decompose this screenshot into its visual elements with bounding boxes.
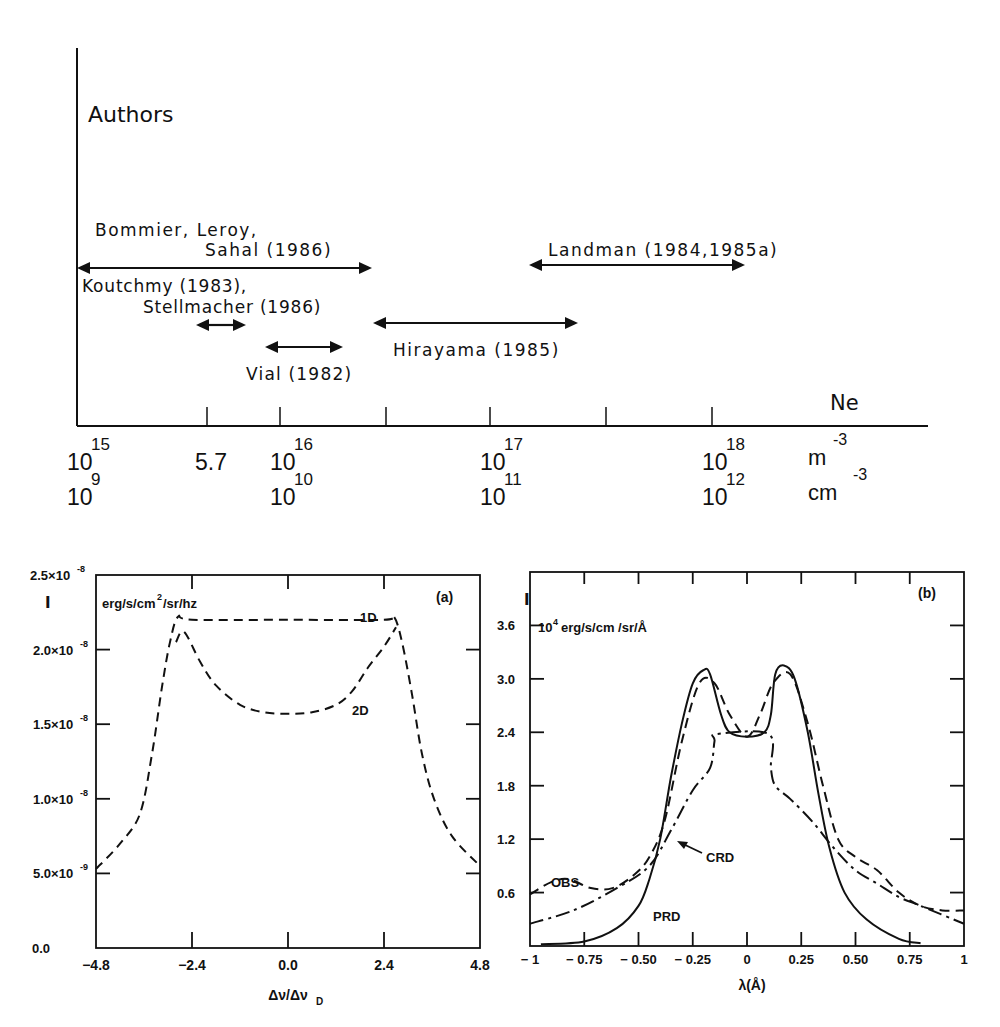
units-cm-exponent: -3 bbox=[853, 466, 867, 483]
chart-a-ytick-exponent: -8 bbox=[80, 788, 88, 798]
arrow-vial bbox=[265, 341, 343, 353]
chart-a-ytick-label: 5.0×10 bbox=[33, 866, 73, 881]
top-axis-tick-labels: 10155.7101610171018109101010111012 bbox=[67, 435, 745, 510]
chart-b-units-rest: erg/s/cm /sr/Å bbox=[561, 620, 648, 635]
tick-label-m-exponent: 17 bbox=[504, 435, 523, 454]
tick-label-cm-exponent: 12 bbox=[726, 470, 745, 489]
chart-a: 0.05.0×10-91.0×10-81.5×10-82.0×10-82.5×1… bbox=[30, 564, 490, 1007]
chart-b-label-prd: PRD bbox=[653, 909, 680, 924]
chart-b-xlabel: λ(Å) bbox=[738, 977, 765, 993]
chart-a-units-exp: 2 bbox=[157, 592, 162, 602]
tick-label-m: 5.7 bbox=[195, 449, 227, 475]
chart-b-panel-label: (b) bbox=[918, 585, 936, 601]
tick-label-cm: 10 bbox=[67, 484, 93, 510]
chart-b-ytick-label: 2.4 bbox=[497, 725, 516, 740]
chart-b-label-crd: CRD bbox=[706, 850, 734, 865]
tick-label-m-exponent: 16 bbox=[294, 435, 313, 454]
chart-a-ytick-exponent: -8 bbox=[77, 564, 85, 574]
chart-a-frame bbox=[96, 575, 480, 948]
ne-axis-label: Ne bbox=[830, 391, 859, 415]
chart-b-xtick-label: 0 bbox=[743, 952, 750, 967]
chart-b-series-obs bbox=[530, 672, 964, 911]
chart-b-units-exp: 4 bbox=[553, 617, 558, 627]
chart-b-xtick-label: − 0.50 bbox=[620, 952, 657, 967]
chart-a-series-2d bbox=[176, 627, 396, 714]
chart-a-xtick-label: 0.0 bbox=[278, 957, 298, 973]
chart-b-ytick-label: 0.6 bbox=[497, 886, 515, 901]
arrow-landman bbox=[529, 259, 745, 271]
tick-label-m: 10 bbox=[702, 449, 728, 475]
chart-a-ytick-label: 1.0×10 bbox=[33, 792, 73, 807]
arrow-hirayama bbox=[373, 317, 578, 329]
tick-label-cm-exponent: 10 bbox=[294, 470, 313, 489]
label-stellmacher: Stellmacher (1986) bbox=[143, 297, 321, 317]
author-range-arrows: Bommier, Leroy,Sahal (1986)Koutchmy (198… bbox=[77, 220, 778, 384]
chart-a-xtick-label: −2.4 bbox=[178, 957, 206, 973]
chart-a-label-1d: 1D bbox=[360, 610, 377, 625]
tick-label-m-exponent: 15 bbox=[91, 435, 110, 454]
chart-a-xtick-label: 2.4 bbox=[374, 957, 394, 973]
label-hirayama: Hirayama (1985) bbox=[393, 340, 560, 360]
chart-b-series-prd bbox=[541, 665, 921, 944]
chart-a-xlabel: Δν/Δν bbox=[268, 987, 308, 1003]
chart-a-ylabel: I bbox=[45, 594, 51, 612]
arrow-koutchmy-stellmacher bbox=[196, 319, 246, 331]
units-m-label: m bbox=[808, 445, 826, 470]
label-koutchmy: Koutchmy (1983), bbox=[82, 276, 247, 296]
tick-label-cm: 10 bbox=[270, 484, 296, 510]
chart-a-units-rest: /sr/hz bbox=[163, 596, 197, 611]
tick-label-m: 10 bbox=[270, 449, 296, 475]
label-vial: Vial (1982) bbox=[246, 364, 352, 384]
top-axis-ticks bbox=[207, 407, 712, 426]
chart-a-xlabel-subscript: D bbox=[316, 996, 323, 1007]
chart-a-ytick-label: 2.0×10 bbox=[33, 643, 73, 658]
tick-label-cm: 10 bbox=[480, 484, 506, 510]
tick-label-cm-exponent: 11 bbox=[504, 470, 522, 489]
chart-b-ytick-label: 1.8 bbox=[497, 779, 515, 794]
tick-label-m: 10 bbox=[480, 449, 506, 475]
tick-label-m: 10 bbox=[67, 449, 93, 475]
chart-b-xtick-label: − 0.75 bbox=[566, 952, 603, 967]
chart-b-ytick-label: 3.6 bbox=[497, 618, 515, 633]
chart-b-ytick-label: 3.0 bbox=[497, 672, 515, 687]
chart-b-series-crd bbox=[530, 731, 964, 923]
chart-b-ytick-label: 1.2 bbox=[497, 832, 515, 847]
chart-a-label-2d: 2D bbox=[352, 703, 369, 718]
chart-b-ylabel: I bbox=[524, 591, 530, 609]
chart-a-ytick-label: 1.5×10 bbox=[33, 717, 73, 732]
arrow-bommier-leroy-sahal bbox=[77, 262, 372, 274]
chart-a-ytick-exponent: -9 bbox=[80, 862, 88, 872]
label-bommier: Bommier, Leroy, bbox=[95, 220, 258, 240]
chart-a-units: erg/s/cm bbox=[102, 596, 155, 611]
units-labels: m -3 cm -3 bbox=[808, 431, 867, 505]
label-landman: Landman (1984,1985a) bbox=[548, 240, 778, 260]
density-range-diagram: Authors Ne 10155.71016101710181091010101… bbox=[67, 48, 928, 510]
chart-a-series-1d bbox=[96, 616, 480, 869]
tick-label-cm-exponent: 9 bbox=[91, 470, 100, 489]
chart-a-ytick-exponent: -8 bbox=[80, 639, 88, 649]
label-sahal: Sahal (1986) bbox=[205, 240, 332, 260]
chart-a-panel-label: (a) bbox=[436, 589, 453, 605]
chart-a-xtick-label: 4.8 bbox=[470, 957, 490, 973]
chart-b-xtick-label: 0.50 bbox=[843, 952, 868, 967]
chart-b: 0.61.21.82.43.03.6− 1− 0.75− 0.50− 0.250… bbox=[497, 572, 968, 993]
units-m-exponent: -3 bbox=[833, 431, 847, 448]
figure-canvas: Authors Ne 10155.71016101710181091010101… bbox=[0, 0, 1000, 1027]
chart-b-xtick-label: 0.75 bbox=[897, 952, 922, 967]
chart-a-ytick-label: 2.5×10 bbox=[30, 568, 70, 583]
chart-b-label-obs: OBS bbox=[551, 875, 580, 890]
chart-b-xtick-label: − 0.25 bbox=[674, 952, 711, 967]
chart-b-units: 10 bbox=[538, 620, 552, 635]
chart-b-xtick-label: 1 bbox=[960, 952, 967, 967]
chart-a-xtick-label: −4.8 bbox=[82, 957, 110, 973]
chart-b-xtick-label: 0.25 bbox=[789, 952, 814, 967]
chart-a-ytick-label: 0.0 bbox=[32, 941, 50, 956]
chart-b-xtick-label: − 1 bbox=[521, 952, 539, 967]
tick-label-cm: 10 bbox=[702, 484, 728, 510]
units-cm-label: cm bbox=[808, 480, 837, 505]
tick-label-m-exponent: 18 bbox=[726, 435, 745, 454]
chart-a-ytick-exponent: -8 bbox=[80, 713, 88, 723]
authors-axis-label: Authors bbox=[88, 102, 174, 127]
